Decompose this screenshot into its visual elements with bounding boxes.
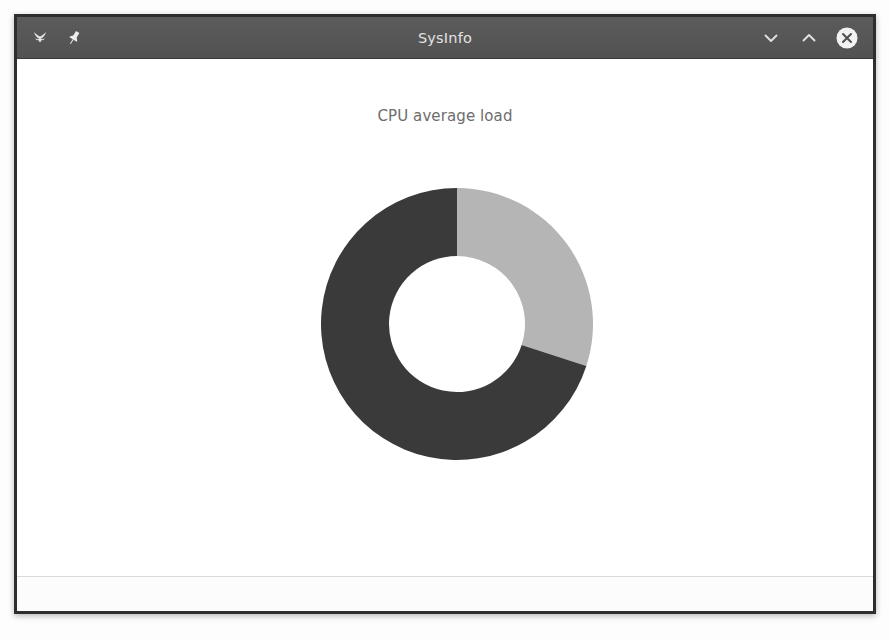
window-content-area: CPU average load bbox=[17, 59, 873, 611]
window-statusbar bbox=[17, 576, 873, 611]
donut-slice-group bbox=[321, 188, 593, 460]
pushpin-icon[interactable] bbox=[62, 26, 86, 50]
chevron-down-icon[interactable] bbox=[759, 26, 783, 50]
window-titlebar[interactable]: SysInfo bbox=[17, 17, 873, 59]
cpu-load-chart-panel: CPU average load bbox=[17, 59, 873, 576]
titlebar-window-controls bbox=[759, 26, 873, 50]
titlebar-left-controls bbox=[17, 26, 86, 50]
desktop-background: SysInfo bbox=[0, 0, 890, 640]
chart-title: CPU average load bbox=[17, 107, 873, 125]
app-butterfly-icon[interactable] bbox=[28, 26, 52, 50]
donut-slice-load[interactable] bbox=[457, 188, 593, 366]
window-title: SysInfo bbox=[17, 17, 873, 58]
donut-svg bbox=[320, 187, 594, 461]
chevron-up-icon[interactable] bbox=[797, 26, 821, 50]
cpu-load-donut-chart[interactable] bbox=[320, 187, 594, 461]
close-circle-icon[interactable] bbox=[835, 26, 859, 50]
sysinfo-window: SysInfo bbox=[14, 14, 876, 614]
